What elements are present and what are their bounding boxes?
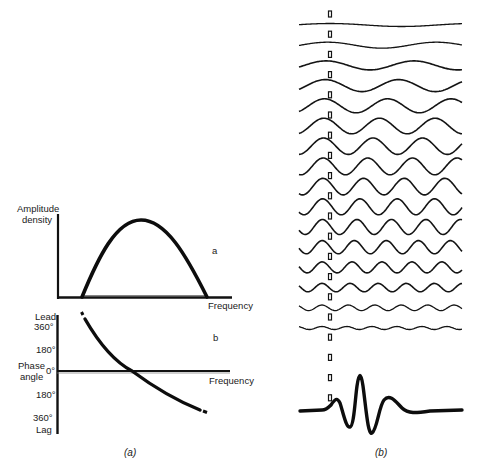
phase-curve-start-dash <box>82 312 84 315</box>
sine-component <box>299 42 462 48</box>
phase-angle-label-line2: angle <box>20 372 43 382</box>
sine-component <box>299 305 462 311</box>
plot-a-tag: a <box>212 246 217 256</box>
sine-component <box>299 283 462 291</box>
sine-component <box>299 178 462 195</box>
time-marker-dash <box>329 375 332 381</box>
impulse-wavelet <box>300 376 462 434</box>
time-marker-dash <box>329 274 332 280</box>
sine-component <box>299 158 462 175</box>
phase-tick-180-lead: 180° <box>36 345 56 355</box>
time-marker-dash <box>329 193 332 199</box>
sine-component <box>299 199 462 215</box>
sine-component <box>299 327 462 330</box>
phase-curve-end-dash <box>203 411 207 413</box>
sine-component <box>299 24 462 27</box>
phase-lag-label: Lag <box>36 425 52 435</box>
time-marker-dash <box>329 354 332 360</box>
time-marker-dash <box>329 31 332 37</box>
plot-b-tag: b <box>213 333 218 343</box>
phase-tick-180-lag: 180° <box>36 390 56 400</box>
sine-component <box>299 99 462 113</box>
phase-spectrum-curve <box>85 319 200 410</box>
time-marker-dash <box>329 314 332 320</box>
sine-component <box>299 80 462 92</box>
time-marker-dash <box>329 51 332 57</box>
phase-angle-label-line1: Phase <box>18 361 45 371</box>
sine-component <box>299 138 462 154</box>
amplitude-x-label: Frequency <box>208 301 253 311</box>
sine-component <box>299 118 462 134</box>
time-marker-dash <box>329 11 332 17</box>
sine-component <box>299 241 462 254</box>
time-marker-dash <box>329 152 332 158</box>
time-marker-dash <box>329 92 332 98</box>
time-marker-dash <box>329 213 332 219</box>
time-marker-dash <box>329 132 332 138</box>
time-marker-dash <box>329 395 332 401</box>
amplitude-plot <box>57 214 232 299</box>
time-marker-dash <box>329 72 332 78</box>
caption-a: (a) <box>124 447 136 458</box>
time-marker-dash <box>329 233 332 239</box>
sine-component <box>299 220 462 235</box>
amplitude-spectrum-curve <box>82 220 207 297</box>
frequency-components <box>299 24 462 330</box>
time-marker-dash <box>329 334 332 340</box>
summed-impulse <box>300 376 462 434</box>
phase-x-label: Frequency <box>209 376 254 386</box>
time-marker-dash <box>329 112 332 118</box>
time-marker-dash <box>329 294 332 300</box>
caption-b: (b) <box>375 447 387 458</box>
phase-plot <box>57 312 230 434</box>
figure-canvas <box>0 0 478 471</box>
time-marker-dash <box>329 173 332 179</box>
amplitude-label-line1: Amplitude <box>17 204 59 214</box>
time-marker-dash <box>329 253 332 259</box>
sine-component <box>299 262 462 273</box>
phase-tick-360-lead: 360° <box>34 322 54 332</box>
phase-tick-0: 0° <box>46 366 55 376</box>
sine-component <box>299 61 462 70</box>
amplitude-label-line2: density <box>22 215 52 225</box>
phase-tick-360-lag: 360° <box>33 413 53 423</box>
